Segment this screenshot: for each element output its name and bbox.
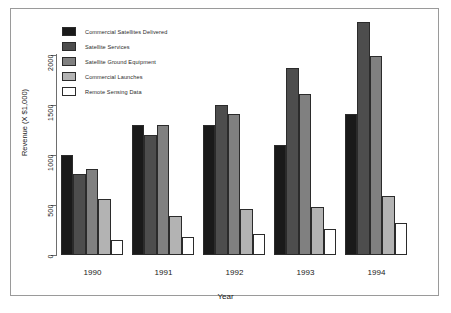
legend-item[interactable]: Commercial Satellites Delivered (62, 24, 167, 39)
bar[interactable] (61, 155, 73, 255)
y-axis-tick-label-wrap: 2000 (0, 55, 50, 56)
bar-group: 1993 (274, 0, 337, 313)
legend-label: Remote Sensing Data (85, 89, 142, 95)
bar[interactable] (132, 125, 144, 255)
legend-label: Commercial Launches (85, 74, 143, 80)
y-axis-tick-label-wrap: 1000 (0, 155, 50, 156)
bar[interactable] (228, 114, 240, 255)
bar-group: 1992 (203, 0, 266, 313)
bar[interactable] (395, 223, 407, 255)
bar[interactable] (286, 68, 298, 255)
x-axis-tick-label: 1991 (132, 268, 195, 277)
legend-label: Satellite Ground Equipment (85, 59, 156, 65)
chart-figure: Revenue (X $1,000) 0500100015002000 1990… (0, 0, 451, 313)
legend-swatch (62, 87, 76, 96)
y-axis-tick-label-wrap: 0 (0, 255, 50, 256)
bar[interactable] (98, 199, 110, 256)
legend-item[interactable]: Commercial Launches (62, 69, 167, 84)
bar[interactable] (311, 207, 323, 255)
y-axis-tick-label: 1500 (47, 105, 54, 121)
bar-group: 1994 (345, 0, 408, 313)
bar[interactable] (324, 229, 336, 256)
legend-item[interactable]: Satellite Services (62, 39, 167, 54)
plot-area: Revenue (X $1,000) 0500100015002000 1990… (0, 0, 451, 313)
y-axis-title: Revenue (X $1,000) (20, 63, 29, 183)
bar[interactable] (299, 94, 311, 255)
bar-group-bars (203, 50, 266, 255)
legend-label: Satellite Services (85, 44, 130, 50)
bar[interactable] (157, 125, 169, 255)
legend-swatch (62, 57, 76, 66)
bar[interactable] (274, 145, 286, 255)
legend-item[interactable]: Satellite Ground Equipment (62, 54, 167, 69)
bar[interactable] (203, 125, 215, 255)
bar[interactable] (345, 114, 357, 255)
x-axis-tick-label: 1994 (345, 268, 408, 277)
x-axis-title: Year (0, 292, 451, 301)
legend-swatch (62, 42, 76, 51)
y-axis-tick-label: 2000 (47, 55, 54, 71)
bar[interactable] (86, 169, 98, 255)
chart-legend: Commercial Satellites DeliveredSatellite… (62, 24, 167, 99)
y-axis-tick-label-wrap: 1500 (0, 105, 50, 106)
y-axis-tick-label: 500 (47, 205, 54, 217)
y-axis-tick-label-wrap: 500 (0, 205, 50, 206)
bar[interactable] (370, 56, 382, 255)
y-axis-tick-label: 1000 (47, 155, 54, 171)
bar-group-bars (274, 50, 337, 255)
bar[interactable] (253, 234, 265, 256)
bar[interactable] (182, 237, 194, 256)
bar[interactable] (382, 196, 394, 255)
bar[interactable] (144, 135, 156, 255)
legend-item[interactable]: Remote Sensing Data (62, 84, 167, 99)
y-axis-tick-label: 0 (47, 255, 54, 259)
bar[interactable] (73, 174, 85, 255)
bar[interactable] (240, 209, 252, 255)
bar[interactable] (169, 216, 181, 255)
bar[interactable] (215, 105, 227, 255)
bar[interactable] (357, 22, 369, 255)
legend-label: Commercial Satellites Delivered (85, 29, 167, 35)
bar-group-bars (345, 50, 408, 255)
x-axis-tick-label: 1992 (203, 268, 266, 277)
bar[interactable] (111, 240, 123, 255)
legend-swatch (62, 72, 76, 81)
x-axis-tick-label: 1993 (274, 268, 337, 277)
legend-swatch (62, 27, 76, 36)
x-axis-tick-label: 1990 (61, 268, 124, 277)
